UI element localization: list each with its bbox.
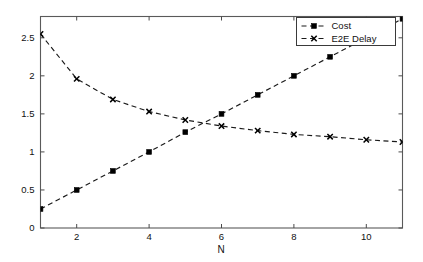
legend-label: Cost: [332, 20, 352, 31]
data-point-marker: [38, 207, 43, 212]
y-axis-ticks: [41, 38, 403, 228]
figure-canvas: 246810 00.511.522.5 N CostE2E Delay: [0, 0, 423, 262]
chart-legend: CostE2E Delay: [297, 18, 396, 46]
axes-frame: [41, 17, 403, 229]
x-axis-label: N: [217, 244, 224, 255]
data-point-marker: [111, 169, 116, 174]
x-axis-tick-labels: 246810: [74, 231, 372, 242]
x-tick-label: 2: [74, 231, 79, 242]
data-point-marker: [328, 54, 333, 59]
data-point-marker: [255, 92, 260, 97]
series-e2e-delay: [38, 31, 405, 144]
y-axis-tick-labels: 00.511.522.5: [21, 32, 34, 233]
data-point-marker: [110, 97, 115, 102]
data-point-marker: [74, 76, 79, 81]
y-tick-label: 1: [29, 146, 34, 157]
data-point-marker: [147, 150, 152, 155]
x-tick-label: 6: [219, 231, 224, 242]
data-point-marker: [400, 16, 405, 21]
y-tick-label: 1.5: [21, 108, 34, 119]
chart-svg: 246810 00.511.522.5 N CostE2E Delay: [0, 0, 423, 262]
y-tick-label: 0: [29, 222, 34, 233]
data-point-marker: [219, 111, 224, 116]
x-tick-label: 4: [146, 231, 151, 242]
x-axis-ticks: [77, 17, 367, 229]
x-tick-label: 10: [361, 231, 372, 242]
x-tick-label: 8: [291, 231, 296, 242]
data-point-marker: [292, 73, 297, 78]
y-tick-label: 2: [29, 70, 34, 81]
y-tick-label: 0.5: [21, 184, 34, 195]
data-point-marker: [74, 188, 79, 193]
legend-marker: [312, 24, 317, 29]
legend-label: E2E Delay: [332, 33, 377, 44]
plot-area: 246810 00.511.522.5: [21, 16, 405, 242]
y-tick-label: 2.5: [21, 32, 34, 43]
data-point-marker: [183, 130, 188, 135]
